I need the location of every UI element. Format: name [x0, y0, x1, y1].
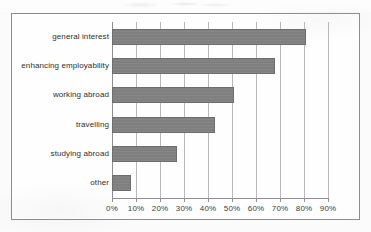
bar-working-abroad — [112, 87, 234, 103]
gridline-30 — [184, 22, 185, 198]
bar-other — [112, 175, 131, 191]
x-tick-70 — [280, 198, 281, 202]
bar-general-interest — [112, 29, 306, 45]
x-tick-0 — [112, 198, 113, 202]
category-label-general-interest: general interest — [13, 32, 109, 41]
x-tick-50 — [232, 198, 233, 202]
category-label-travelling: travelling — [13, 120, 109, 129]
gridline-40 — [208, 22, 209, 198]
gridline-80 — [304, 22, 305, 198]
x-tick-label-90: 90% — [308, 204, 348, 213]
category-label-working-abroad: working abroad — [13, 90, 109, 99]
category-label-enhancing-employability: enhancing employability — [13, 61, 109, 70]
x-tick-20 — [160, 198, 161, 202]
gridline-70 — [280, 22, 281, 198]
bar-travelling — [112, 117, 215, 133]
bar-studying-abroad — [112, 146, 177, 162]
scan-artifact-strip — [0, 0, 371, 12]
gridline-50 — [232, 22, 233, 198]
gridline-20 — [160, 22, 161, 198]
bar-enhancing-employability — [112, 58, 275, 74]
x-tick-90 — [328, 198, 329, 202]
category-label-studying-abroad: studying abroad — [13, 149, 109, 158]
gridline-60 — [256, 22, 257, 198]
gridline-90 — [328, 22, 329, 198]
x-tick-80 — [304, 198, 305, 202]
x-axis-line — [112, 198, 328, 199]
plot-area — [112, 22, 328, 198]
plot-wrapper: general interestenhancing employabilityw… — [12, 14, 359, 219]
x-tick-60 — [256, 198, 257, 202]
chart-frame: general interestenhancing employabilityw… — [11, 13, 360, 220]
gridline-10 — [136, 22, 137, 198]
x-tick-10 — [136, 198, 137, 202]
x-tick-40 — [208, 198, 209, 202]
category-label-other: other — [13, 178, 109, 187]
x-tick-30 — [184, 198, 185, 202]
gridline-0 — [112, 22, 113, 198]
category-axis-labels: general interestenhancing employabilityw… — [12, 22, 109, 198]
